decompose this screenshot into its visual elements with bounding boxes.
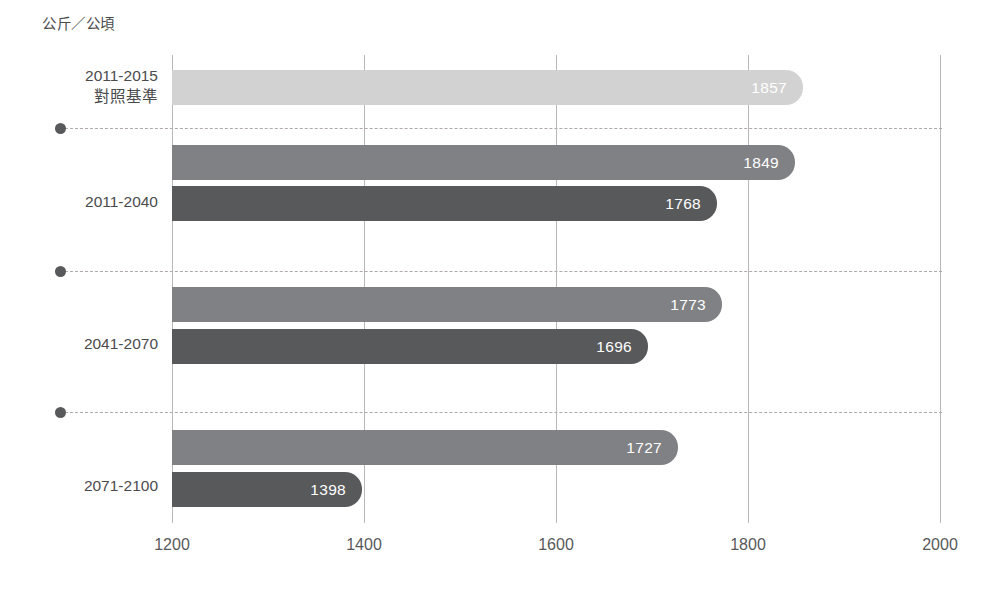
category-label-group-1: 2011-2015 對照基準	[85, 65, 158, 108]
category-label-line1: 2011-2040	[85, 191, 158, 212]
bar-2011-2040-dark: 1768	[172, 186, 717, 221]
bar-2071-2100-dark: 1398	[172, 472, 362, 507]
group-separator-3	[60, 412, 942, 414]
bar-2041-2070-medium: 1773	[172, 287, 722, 322]
category-label-group-3: 2041-2070	[84, 333, 158, 354]
xtick-label-2000: 2000	[922, 536, 958, 554]
bar-value-label: 1768	[665, 195, 701, 213]
category-label-line2: 對照基準	[85, 86, 158, 107]
group-separator-dot-2	[55, 266, 66, 277]
bar-value-label: 1727	[626, 439, 662, 457]
xtick-label-1600: 1600	[538, 536, 574, 554]
xtick-label-1800: 1800	[730, 536, 766, 554]
bar-value-label: 1398	[310, 481, 346, 499]
bar-value-label: 1773	[670, 296, 706, 314]
unit-label: 公斤／公頃	[42, 12, 115, 33]
category-label-line1: 2041-2070	[84, 333, 158, 354]
bar-value-label: 1696	[596, 338, 632, 356]
bar-2071-2100-medium: 1727	[172, 430, 678, 465]
category-label-group-4: 2071-2100	[84, 475, 158, 496]
category-label-group-2: 2011-2040	[85, 191, 158, 212]
group-separator-dot-3	[55, 407, 66, 418]
gridline-1800	[748, 55, 749, 523]
xtick-label-1200: 1200	[154, 536, 190, 554]
bar-2011-2015-baseline: 1857	[172, 70, 803, 105]
xtick-label-1400: 1400	[346, 536, 382, 554]
bar-chart: 公斤／公頃 2011-2015 對照基準 1857 2011-2040 1849…	[0, 0, 985, 597]
category-label-line1: 2071-2100	[84, 475, 158, 496]
bar-value-label: 1857	[751, 79, 787, 97]
group-separator-2	[60, 271, 942, 273]
gridline-2000	[940, 55, 941, 523]
bar-2041-2070-dark: 1696	[172, 329, 648, 364]
group-separator-dot-1	[55, 123, 66, 134]
group-separator-1	[60, 128, 942, 130]
bar-value-label: 1849	[743, 154, 779, 172]
bar-2011-2040-medium: 1849	[172, 145, 795, 180]
category-label-line1: 2011-2015	[85, 65, 158, 86]
plot-area: 2011-2015 對照基準 1857 2011-2040 1849 1768 …	[0, 55, 985, 525]
